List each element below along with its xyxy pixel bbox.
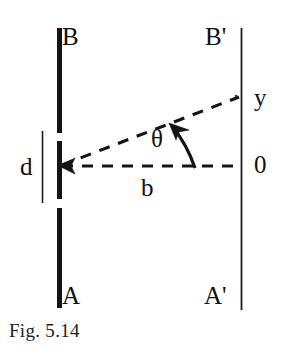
label-angle-theta: θ [151,126,163,151]
label-screen-distance: b [141,175,154,200]
label-screen-bottom: A' [204,283,227,308]
label-barrier-bottom: A [62,283,80,308]
label-screen-top: B' [205,24,226,49]
figure-caption: Fig. 5.14 [9,320,80,342]
label-slit-width: d [20,154,33,179]
scan-speck [235,95,238,98]
label-barrier-top: B [62,24,79,49]
label-fringe-position: y [254,85,267,110]
label-origin: 0 [254,152,267,177]
figure-container: B B' y 0 d b θ A A' Fig. 5.14 [0,0,285,350]
